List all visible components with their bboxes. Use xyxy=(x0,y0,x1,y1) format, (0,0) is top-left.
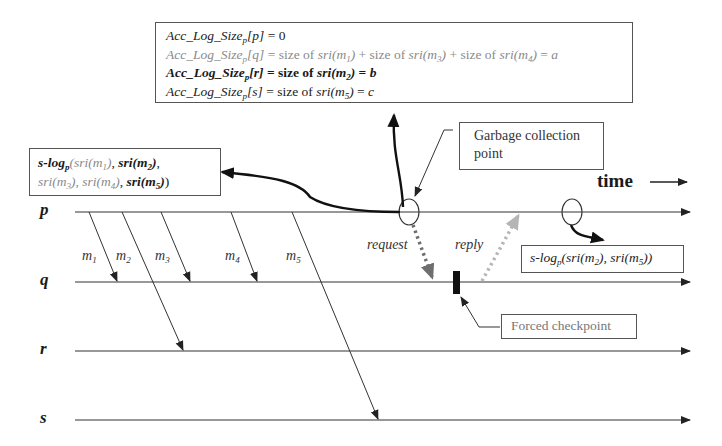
time-label: time xyxy=(597,170,633,192)
gc-callout-line1: Garbage collection xyxy=(474,127,603,145)
slog-left-arrow xyxy=(222,172,400,212)
acc-log-size-box: Acc_Log_Sizep[p] = 0 Acc_Log_Sizep[q] = … xyxy=(155,22,633,103)
forced-checkpoint-leader xyxy=(461,297,500,327)
forced-checkpoint-callout: Forced checkpoint xyxy=(501,314,637,339)
acc-line-r: Acc_Log_Sizep[r] = size of sri(m2) = b xyxy=(166,64,632,83)
gc-callout-box: Garbage collection point xyxy=(459,122,604,170)
request-label: request xyxy=(367,237,408,253)
acc-line-s: Acc_Log_Sizep[s] = size of sri(m5) = c xyxy=(166,83,632,102)
gc-callout-line2: point xyxy=(474,145,603,163)
forced-checkpoint-marker xyxy=(453,271,460,294)
acc-line-p: Acc_Log_Sizep[p] = 0 xyxy=(166,27,632,46)
request-arrow xyxy=(413,225,432,277)
message-label-m2: m2 xyxy=(116,248,131,264)
message-label-m3: m3 xyxy=(155,248,170,264)
acc-line-q: Acc_Log_Sizep[q] = size of sri(m1) + siz… xyxy=(166,46,632,65)
slog-left-line2: sri(m3), sri(m4), sri(m5)) xyxy=(38,172,220,191)
slog-right-arrow xyxy=(571,225,603,240)
reply-label: reply xyxy=(455,237,483,253)
slog-right-box: s-logp(sri(m2), sri(m5)) xyxy=(521,245,684,273)
message-m2-arrow xyxy=(122,212,183,350)
slog-left-line1: s-logp(sri(m1), sri(m2), xyxy=(38,153,220,172)
process-label-p: p xyxy=(40,200,49,220)
reply-arrow xyxy=(482,216,518,281)
message-m3-arrow xyxy=(161,212,190,281)
process-label-r: r xyxy=(40,339,47,359)
process-label-q: q xyxy=(40,270,49,290)
message-m1-arrow xyxy=(89,212,117,281)
message-label-m1: m1 xyxy=(82,248,97,264)
message-label-m5: m5 xyxy=(286,248,301,264)
slog-left-box: s-logp(sri(m1), sri(m2), sri(m3), sri(m4… xyxy=(29,148,221,196)
message-label-m4: m4 xyxy=(225,248,240,264)
message-m4-arrow xyxy=(231,212,257,281)
acc-box-arrow xyxy=(394,115,403,207)
gc-callout-leader xyxy=(415,130,453,196)
message-m5-arrow xyxy=(292,212,378,419)
process-label-s: s xyxy=(40,408,47,428)
